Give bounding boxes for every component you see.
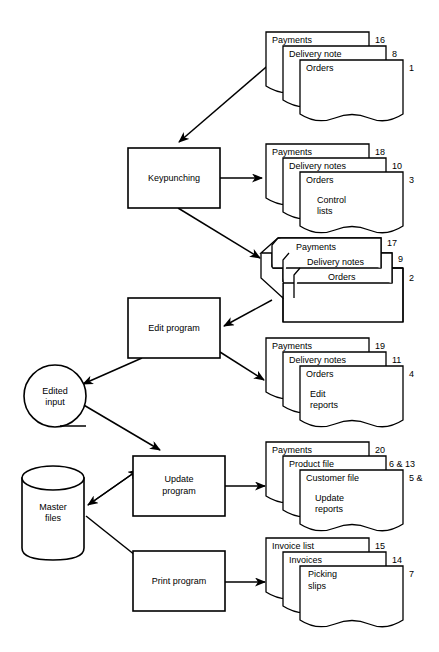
document-stack-keypunch-output: Payments Delivery notes Orders Control l… — [266, 144, 414, 233]
doc-label: Delivery note — [289, 49, 342, 59]
doc-number: 8 — [392, 49, 397, 59]
storage-label-line1: Edited — [42, 386, 68, 396]
doc-extra-line2: reports — [310, 400, 339, 410]
document-stack-edit-output: Payments Delivery notes Orders Edit repo… — [266, 338, 414, 427]
doc-label: Orders — [306, 369, 334, 379]
doc-label: Payments — [272, 147, 313, 157]
deck-number: 2 — [409, 273, 414, 283]
storage-label-line2: input — [45, 397, 65, 407]
doc-label: Invoices — [289, 555, 323, 565]
deck-label: Delivery notes — [307, 257, 365, 267]
doc-number: 16 — [375, 35, 385, 45]
doc-label: Payments — [272, 445, 313, 455]
connector-editedinput-to-updateprogram — [82, 404, 160, 450]
connector-editprogram-to-editedinput — [83, 358, 142, 384]
deck-label: Orders — [328, 272, 356, 282]
storage-edited-input: Edited input — [24, 365, 86, 427]
doc-label: Product file — [289, 459, 334, 469]
connector-editprogram-to-docs3 — [220, 352, 264, 380]
flowchart-canvas: Payments Delivery note Orders 16 8 1 Key… — [0, 0, 439, 652]
doc-label: Delivery notes — [289, 161, 347, 171]
doc-number: 6 & 13 — [389, 459, 415, 469]
doc-number: 10 — [392, 161, 402, 171]
deck-number: 9 — [398, 254, 403, 264]
process-keypunching[interactable]: Keypunching — [128, 148, 220, 208]
process-label-line2: program — [162, 486, 196, 496]
connector-keypunching-to-carddeck — [178, 208, 260, 258]
doc-number: 18 — [375, 147, 385, 157]
process-label: Keypunching — [148, 173, 200, 183]
doc-number: 19 — [375, 341, 385, 351]
doc-extra-line1: Control — [317, 195, 346, 205]
storage-label-line1: Master — [39, 502, 67, 512]
doc-extra-line1: Edit — [310, 389, 326, 399]
doc-label: Invoice list — [272, 541, 315, 551]
process-label-line1: Update — [164, 474, 193, 484]
process-print-program[interactable]: Print program — [133, 551, 225, 611]
doc-label: Payments — [272, 341, 313, 351]
doc-number: 3 — [409, 175, 414, 185]
process-label: Edit program — [148, 323, 200, 333]
connector-carddeck-to-editprogram — [224, 300, 272, 326]
doc-number: 1 — [409, 63, 414, 73]
doc-label-line1: Picking — [308, 569, 337, 579]
storage-label-line2: files — [45, 513, 62, 523]
doc-label: Delivery notes — [289, 355, 347, 365]
document-stack-source-input: Payments Delivery note Orders 16 8 1 — [266, 32, 414, 121]
process-label: Print program — [152, 576, 207, 586]
deck-label: Payments — [296, 242, 337, 252]
document-stack-update-output: Payments Product file Customer file Upda… — [266, 442, 423, 531]
doc-extra-line2: lists — [317, 206, 333, 216]
doc-number: 14 — [392, 555, 402, 565]
doc-label: Orders — [306, 175, 334, 185]
doc-extra-line2: reports — [315, 504, 344, 514]
process-edit-program[interactable]: Edit program — [128, 298, 220, 358]
deck-number: 17 — [387, 238, 397, 248]
document-stack-print-output: Invoice list Invoices Picking slips 15 1… — [266, 538, 414, 627]
connector-masterfiles-updateprogram-bidirectional — [88, 470, 138, 505]
doc-label: Payments — [272, 35, 313, 45]
card-deck-stack: Payments Delivery notes Orders 17 9 2 — [261, 238, 414, 322]
storage-master-files: Master files — [22, 466, 84, 560]
connector-docs1-to-keypunching — [179, 62, 272, 142]
doc-number: 4 — [409, 369, 414, 379]
doc-label-line2: slips — [308, 581, 327, 591]
doc-number: 15 — [375, 541, 385, 551]
doc-number: 7 — [409, 569, 414, 579]
doc-label: Orders — [306, 63, 334, 73]
doc-label: Customer file — [306, 473, 359, 483]
doc-number: 11 — [392, 355, 401, 365]
doc-number: 20 — [375, 445, 385, 455]
doc-number: 5 & — [409, 473, 423, 483]
doc-extra-line1: Update — [315, 493, 344, 503]
process-update-program[interactable]: Update program — [133, 456, 225, 516]
